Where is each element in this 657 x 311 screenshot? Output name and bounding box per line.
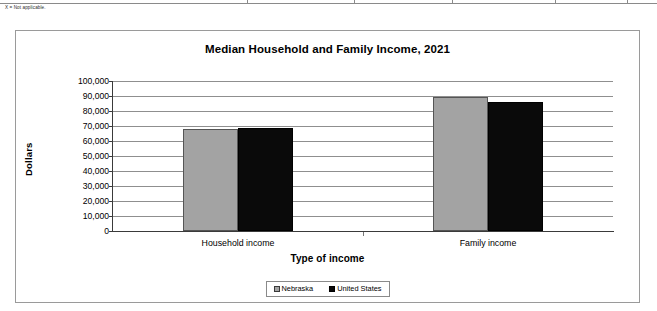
chart-title: Median Household and Family Income, 2021 xyxy=(16,43,639,55)
legend-item: United States xyxy=(329,284,381,293)
y-axis-tick-label: 10,000 xyxy=(49,212,109,220)
y-axis-tick-label: 90,000 xyxy=(49,92,109,100)
table-column-divider xyxy=(354,0,355,4)
legend-swatch xyxy=(329,286,335,292)
legend-swatch xyxy=(273,286,279,292)
bar-united-states-family-income xyxy=(488,102,543,231)
chart-container: Median Household and Family Income, 2021… xyxy=(15,30,640,303)
legend-item: Nebraska xyxy=(273,284,313,293)
y-axis-tick-label: 70,000 xyxy=(49,122,109,130)
x-axis-title: Type of income xyxy=(16,253,639,264)
table-column-divider xyxy=(555,0,556,4)
footnote-text: X = Not applicable. xyxy=(5,4,46,11)
y-axis-tick-label: 50,000 xyxy=(49,152,109,160)
x-axis-category-label: Household income xyxy=(113,238,363,248)
table-remnant: X = Not applicable. xyxy=(0,0,657,12)
gridline xyxy=(113,81,613,82)
plot-area: Household incomeFamily income xyxy=(113,81,613,231)
bar-nebraska-family-income xyxy=(433,97,488,231)
y-axis-tick-label: 40,000 xyxy=(49,167,109,175)
y-axis-tick-label: 100,000 xyxy=(49,77,109,85)
bar-united-states-household-income xyxy=(238,128,293,231)
chart-legend: NebraskaUnited States xyxy=(265,281,389,297)
y-axis-tick-label: 0 xyxy=(49,227,109,235)
x-axis-category-divider xyxy=(363,232,364,236)
table-column-divider xyxy=(247,0,248,4)
table-column-divider xyxy=(627,0,628,4)
y-axis-line xyxy=(112,81,113,232)
table-bottom-rule xyxy=(0,3,657,4)
x-axis-category-label: Family income xyxy=(363,238,613,248)
table-column-divider xyxy=(452,0,453,4)
y-axis-tick-label: 60,000 xyxy=(49,137,109,145)
y-axis-tick-label: 20,000 xyxy=(49,197,109,205)
gridline xyxy=(113,96,613,97)
y-axis-tick-label: 80,000 xyxy=(49,107,109,115)
y-axis-tick-label: 30,000 xyxy=(49,182,109,190)
y-axis-title: Dollars xyxy=(23,129,39,189)
legend-label: Nebraska xyxy=(281,284,313,293)
y-axis-tick-labels: 100,00090,00080,00070,00060,00050,00040,… xyxy=(47,81,109,231)
bar-nebraska-household-income xyxy=(183,129,238,231)
legend-label: United States xyxy=(337,284,381,293)
